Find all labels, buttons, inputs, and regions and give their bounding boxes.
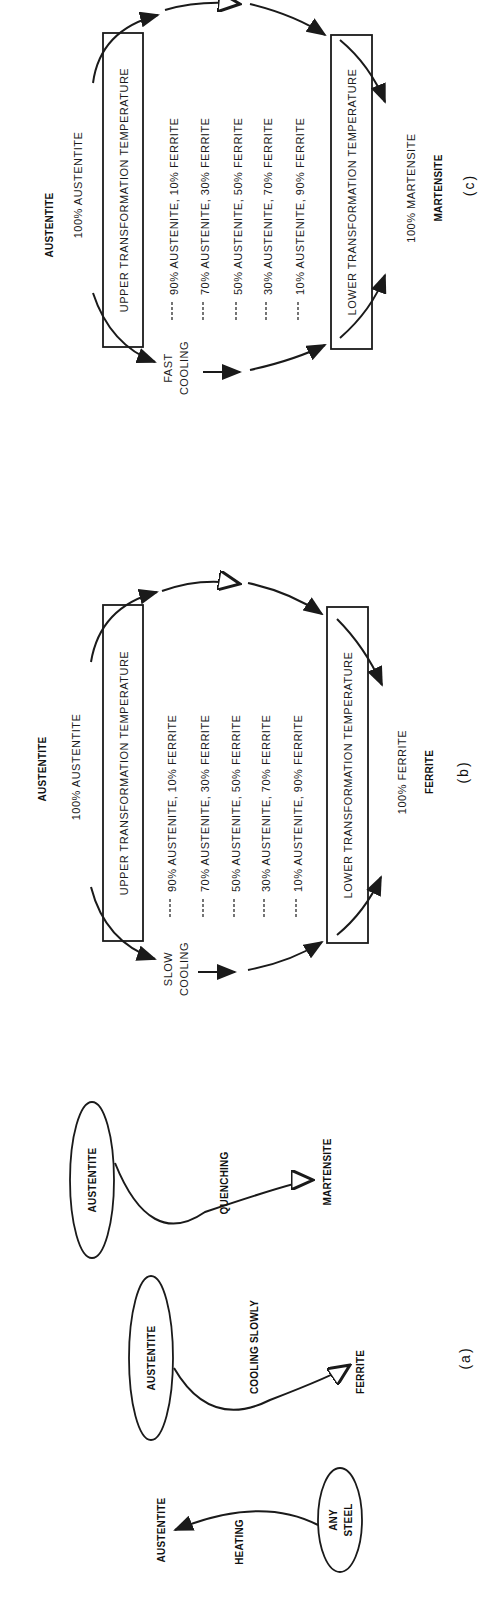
c-process-line1: FAST: [162, 353, 174, 383]
a-quench-result: MARTENSITE: [322, 1138, 333, 1205]
a-heating-start-line2: STEEL: [343, 1503, 354, 1536]
a-slow-arrow: [174, 1365, 350, 1410]
b-end-pct: 100% FERRITE: [396, 730, 408, 814]
a-slow-result: FERRITE: [355, 1350, 366, 1394]
b-start-pct: 100% AUSTENTITE: [70, 714, 82, 821]
b-arrow-right-top: [248, 583, 322, 614]
diagram-a: AUSTENTITE QUENCHING MARTENSITE AUSTENTI…: [70, 1102, 473, 1572]
c-process-line2: COOLING: [178, 341, 190, 395]
a-caption: (a): [457, 1346, 473, 1369]
c-upper-box-label: UPPER TRANSFORMATION TEMPERATURE: [118, 68, 130, 312]
c-arrow-top: [165, 3, 240, 10]
c-row-5: 10% AUSTENITE, 90% FERRITE: [294, 118, 306, 295]
b-arrow-top: [162, 582, 240, 591]
c-arrow-right-top: [250, 4, 325, 35]
b-row-1: 90% AUSTENITE, 10% FERRITE: [166, 715, 178, 892]
diagram-c: AUSTENTITE 100% AUSTENTITE UPPER TRANSFO…: [44, 3, 477, 395]
c-row-4: 30% AUSTENITE, 70% FERRITE: [262, 118, 274, 295]
b-end-phase: FERRITE: [424, 750, 435, 794]
c-start-phase: AUSTENTITE: [44, 192, 55, 257]
c-arrow-to-lower: [250, 345, 325, 370]
b-process-line2: COOLING: [178, 942, 190, 996]
a-heating-process: HEATING: [234, 1519, 245, 1565]
b-process-line1: SLOW: [162, 952, 174, 987]
b-row-2: 70% AUSTENITE, 30% FERRITE: [199, 715, 211, 892]
c-caption: (c): [461, 174, 477, 196]
b-upper-box-label: UPPER TRANSFORMATION TEMPERATURE: [118, 651, 130, 895]
a-quench-process: QUENCHING: [219, 1152, 230, 1215]
c-end-pct: 100% MARTENSITE: [405, 133, 417, 242]
b-arrow-to-lower: [248, 942, 322, 970]
b-start-phase: AUSTENTITE: [37, 736, 48, 801]
b-row-4: 30% AUSTENITE, 70% FERRITE: [260, 715, 272, 892]
a-slow-start: AUSTENTITE: [146, 1325, 157, 1390]
a-quench-start: AUSTENTITE: [87, 1147, 98, 1212]
a-heating-start-line1: ANY: [328, 1509, 339, 1531]
b-row-3: 50% AUSTENITE, 50% FERRITE: [230, 715, 242, 892]
diagram-b: AUSTENTITE 100% AUSTENTITE UPPER TRANSFO…: [37, 582, 471, 996]
b-caption: (b): [455, 760, 471, 783]
a-heating-start-ellipse: [318, 1468, 362, 1572]
a-slow-process: COOLING SLOWLY: [249, 1300, 260, 1394]
a-heating-result: AUSTENTITE: [156, 1497, 167, 1562]
a-heating-arrow: [175, 1511, 318, 1530]
b-row-5: 10% AUSTENITE, 90% FERRITE: [292, 715, 304, 892]
c-start-pct: 100% AUSTENTITE: [72, 132, 84, 239]
c-row-2: 70% AUSTENITE, 30% FERRITE: [199, 118, 211, 295]
c-row-3: 50% AUSTENITE, 50% FERRITE: [232, 118, 244, 295]
a-quench-arrow: [115, 1163, 313, 1224]
b-lower-box-label: LOWER TRANSFORMATION TEMPERATURE: [342, 652, 354, 899]
b-arrow-upper-left: [91, 887, 155, 959]
c-lower-box-label: LOWER TRANSFORMATION TEMPERATURE: [346, 69, 358, 316]
c-row-1: 90% AUSTENITE, 10% FERRITE: [168, 118, 180, 295]
steel-transformation-diagram: AUSTENTITE 100% AUSTENTITE UPPER TRANSFO…: [0, 0, 483, 1598]
c-end-phase: MARTENSITE: [433, 154, 444, 221]
